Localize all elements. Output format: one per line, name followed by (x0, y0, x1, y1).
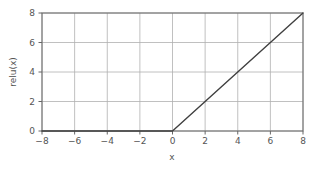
x-tick-label: −4 (101, 137, 114, 146)
y-axis-label: relu(x) (9, 57, 18, 87)
x-tick-label: −6 (68, 137, 81, 146)
grid-lines (42, 13, 303, 131)
x-tick-label: −8 (35, 137, 48, 146)
chart-figure: −8−6−4−202468 02468 x relu(x) (0, 0, 315, 172)
y-tick-label: 6 (15, 38, 35, 47)
y-tick-label: 2 (15, 97, 35, 106)
plot-canvas (0, 0, 315, 172)
x-tick-label: −2 (133, 137, 146, 146)
x-tick-label: 2 (202, 137, 208, 146)
x-tick-label: 8 (300, 137, 306, 146)
y-tick-label: 4 (15, 68, 35, 77)
x-tick-label: 4 (235, 137, 241, 146)
tick-marks (39, 13, 304, 135)
y-tick-label: 8 (15, 9, 35, 18)
y-tick-label: 0 (15, 127, 35, 136)
x-tick-label: 6 (268, 137, 274, 146)
x-tick-label: 0 (170, 137, 176, 146)
x-axis-label: x (169, 153, 174, 162)
